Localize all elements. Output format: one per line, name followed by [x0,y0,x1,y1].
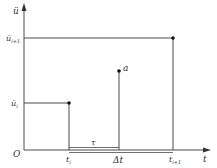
point-a-label: a [123,63,128,73]
y-axis-label: ü [13,6,19,16]
y-tick-u-i: üi [11,99,18,109]
x-axis-label: t [203,154,207,164]
x-tick-delta-t: Δt [112,155,123,165]
x-axis-arrow-icon [203,148,211,153]
x-tick-sub: i [69,159,71,165]
y-tick-u-i-plus-1: üi+1 [6,34,20,44]
x-tick-t-i-plus-1: ti+1 [169,155,181,165]
tau-label: τ [91,138,96,147]
y-tick-sub: i+1 [11,38,20,44]
x-tick-sub: i+1 [172,159,181,165]
point-a [117,69,121,73]
y-tick-sub: i [16,103,18,109]
y-axis-arrow-icon [22,3,27,11]
point-t-i [67,101,71,105]
point-t-i-plus-1 [171,36,175,40]
acceleration-time-diagram: ü t O üi+1 üi ti Δt ti+1 τ a [0,0,217,168]
origin-label: O [13,149,21,159]
x-tick-t-i: ti [66,155,71,165]
